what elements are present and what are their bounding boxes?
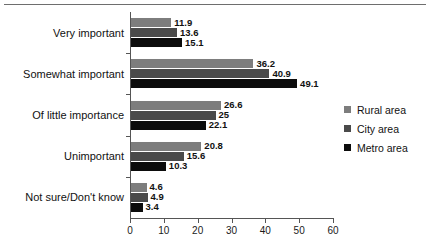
x-axis-tick-label: 60 [318,225,348,237]
x-axis-tick [333,218,334,223]
y-axis-category-label: Not sure/Don't know [0,191,124,204]
legend-item[interactable]: Rural area [344,100,430,119]
x-axis-tick [164,218,165,223]
bar-value-label: 20.8 [204,141,223,151]
bar [131,162,166,171]
bar [131,28,177,37]
y-axis-category-label: Unimportant [0,150,124,163]
legend-swatch-icon [344,106,351,113]
top-divider [4,4,426,5]
x-axis-tick-label: 40 [250,225,280,237]
x-axis-tick [198,218,199,223]
bar [131,183,147,192]
bar [131,79,297,88]
x-axis-tick [265,218,266,223]
bar-value-label: 15.6 [187,151,206,161]
legend-item[interactable]: Metro area [344,138,430,157]
bar-value-label: 49.1 [300,79,319,89]
x-axis-tick-label: 10 [149,225,179,237]
bar-value-label: 40.9 [272,69,291,79]
bar-chart-figure: 0102030405060Very important11.913.615.1S… [0,0,430,244]
bar-value-label: 22.1 [209,120,228,130]
bar [131,59,253,68]
bar-value-label: 3.4 [146,202,159,212]
y-axis-tick [126,53,130,54]
bar-value-label: 10.3 [169,161,188,171]
legend-swatch-icon [344,144,351,151]
bar [131,38,182,47]
chart-legend: Rural areaCity areaMetro area [344,100,430,157]
y-axis-tick [126,94,130,95]
legend-swatch-icon [344,125,351,132]
y-axis-category-label: Somewhat important [0,68,124,81]
bar [131,18,171,27]
bar-value-label: 15.1 [185,38,204,48]
bar [131,101,221,110]
bar [131,69,269,78]
x-axis-tick [299,218,300,223]
x-axis-tick-label: 0 [115,225,145,237]
bar [131,111,216,120]
bar [131,121,206,130]
plot-area: 0102030405060Very important11.913.615.1S… [130,12,333,218]
bar [131,203,143,212]
y-axis-category-label: Very important [0,27,124,40]
x-axis-tick [232,218,233,223]
x-axis-tick-label: 50 [284,225,314,237]
legend-item-label: Metro area [357,142,408,154]
x-axis-tick [130,218,131,223]
y-axis-tick [126,136,130,137]
legend-item-label: Rural area [357,104,406,116]
legend-item[interactable]: City area [344,119,430,138]
y-axis-category-label: Of little importance [0,109,124,122]
y-axis-tick [126,177,130,178]
legend-item-label: City area [357,123,399,135]
x-axis-tick-label: 20 [183,225,213,237]
x-axis-tick-label: 30 [217,225,247,237]
